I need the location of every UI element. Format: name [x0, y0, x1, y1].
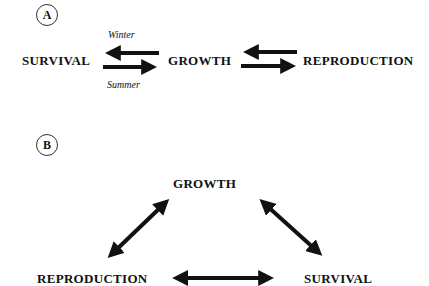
arrows-layer — [0, 0, 429, 286]
arrow-growth-survival-bidirectional — [266, 205, 317, 251]
arrow-growth-reproduction-bidirectional — [114, 204, 164, 252]
